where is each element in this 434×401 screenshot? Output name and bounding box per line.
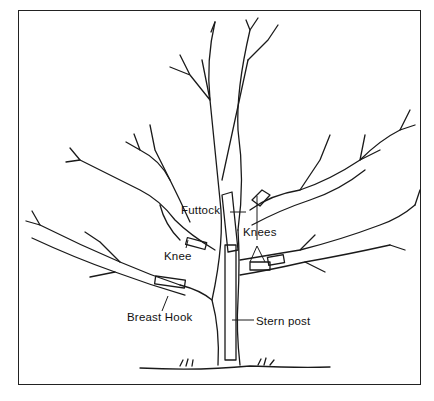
leader-lines (0, 0, 434, 401)
